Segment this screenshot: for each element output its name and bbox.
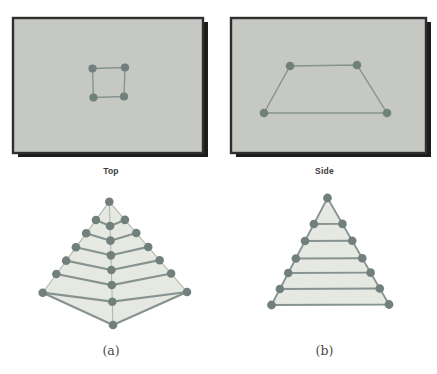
trapezoid-vertex-dot	[286, 62, 295, 71]
layer-left-dot	[301, 237, 310, 246]
layer-left-dot	[62, 256, 71, 265]
figure-canvas: Top Side (a) (b)	[0, 0, 437, 374]
layer-right-dot	[167, 269, 176, 278]
layer-right-dot	[155, 256, 164, 265]
layer-right-dot	[132, 229, 141, 238]
subfigure-b-label: (b)	[218, 343, 431, 358]
base-left-dot	[267, 301, 276, 310]
layer-front-dot	[107, 266, 116, 275]
layer-right-dot	[338, 220, 347, 229]
layer-front-dot	[107, 251, 116, 260]
trapezoid-vertex-dot	[260, 109, 269, 118]
side-view-label: Side	[218, 166, 431, 176]
layer-left-dot	[276, 285, 285, 294]
layer-left-dot	[82, 229, 91, 238]
square-vertex-dot	[120, 92, 128, 100]
layer-left-dot	[292, 254, 301, 263]
layer-front-dot	[106, 236, 115, 245]
layer-left-dot	[310, 220, 319, 229]
panel-frame	[13, 18, 203, 153]
layer-right-dot	[144, 243, 153, 252]
trapezoid-vertex-dot	[383, 109, 392, 118]
layer-left-dot	[92, 216, 101, 225]
panel-frame	[231, 18, 426, 153]
square-vertex-dot	[89, 93, 97, 101]
layer-left-dot	[284, 269, 293, 278]
layer-right-dot	[358, 254, 367, 263]
layer-front-dot	[108, 281, 117, 290]
pyramid-corner-view	[0, 185, 218, 335]
layer-right-dot	[348, 236, 357, 245]
layer-front-dot	[106, 222, 115, 231]
side-view-panel	[218, 0, 437, 165]
base-right-dot	[385, 300, 394, 309]
layer-right-dot	[183, 288, 192, 297]
base-front-dot	[109, 321, 118, 330]
pyramid-side-view	[218, 185, 437, 335]
apex-dot	[323, 194, 332, 203]
layer-left-dot	[72, 243, 81, 252]
top-view-panel	[0, 0, 218, 165]
square-vertex-dot	[121, 63, 129, 71]
square-vertex-dot	[88, 64, 96, 72]
apex-dot	[105, 197, 114, 206]
top-view-label: Top	[0, 166, 222, 176]
subfigure-a-label: (a)	[0, 343, 222, 358]
layer-right-dot	[121, 216, 130, 225]
layer-left-dot	[38, 288, 47, 297]
layer-left-dot	[52, 270, 61, 279]
layer-front-dot	[108, 297, 117, 306]
layer-right-dot	[366, 268, 375, 277]
layer-right-dot	[376, 284, 385, 293]
trapezoid-vertex-dot	[353, 61, 362, 70]
